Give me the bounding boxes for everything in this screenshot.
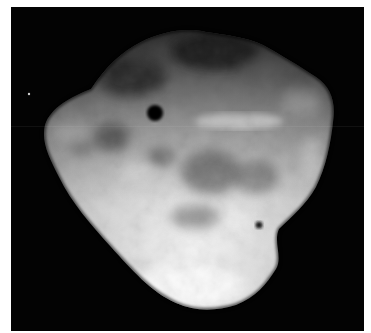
star-icon	[28, 93, 30, 95]
asteroid-illustration	[11, 7, 364, 331]
asteroid-body	[11, 7, 364, 331]
small-dark-spot	[256, 222, 263, 229]
large-dark-spot	[147, 105, 163, 121]
scan-artifact-line	[11, 126, 364, 127]
asteroid-photo: asteroid	[11, 7, 364, 331]
